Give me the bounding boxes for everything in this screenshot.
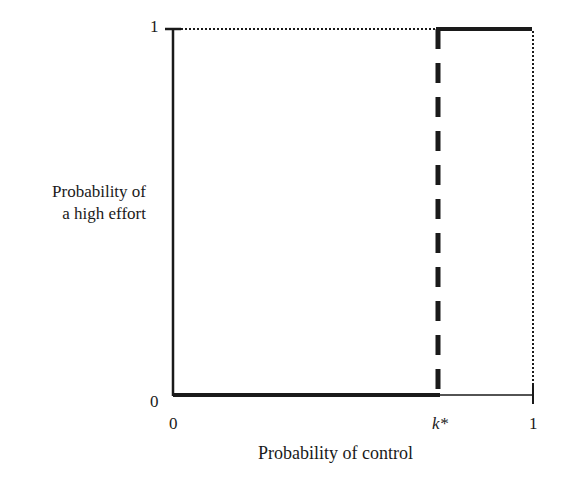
y-axis-title-line1: Probability of xyxy=(18,181,146,203)
step-function-diagram xyxy=(0,0,565,495)
y-axis-title-line2: a high effort xyxy=(18,203,146,225)
y-axis-title: Probability of a high effort xyxy=(18,181,146,225)
x-axis-title: Probability of control xyxy=(258,443,413,463)
x-tick-label-kstar: k* xyxy=(432,414,448,434)
y-tick-label-1: 1 xyxy=(150,17,159,37)
y-tick-label-0: 0 xyxy=(150,392,159,412)
x-tick-label-0: 0 xyxy=(169,414,178,434)
x-tick-label-1: 1 xyxy=(529,414,538,434)
